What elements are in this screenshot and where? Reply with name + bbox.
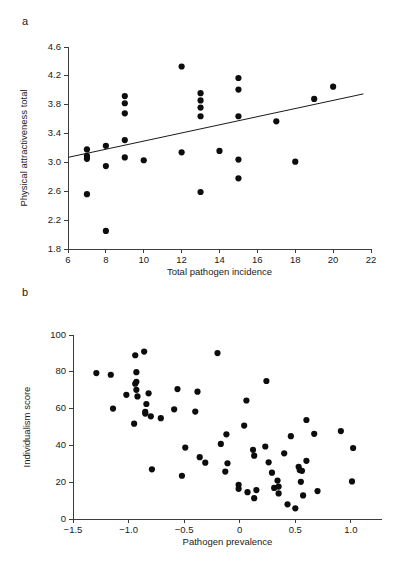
data-point xyxy=(236,486,242,492)
data-point xyxy=(158,415,164,421)
y-tick-label: 0 xyxy=(61,513,66,524)
data-point xyxy=(133,369,139,375)
data-point xyxy=(171,406,177,412)
data-point xyxy=(241,422,247,428)
data-point xyxy=(179,149,185,155)
data-point xyxy=(141,157,147,163)
x-tick-label: 14 xyxy=(214,254,225,265)
panel-b-plot-area: 020406080100−1.5−1.0−0.500.51.0Pathogen … xyxy=(0,285,401,565)
data-point xyxy=(263,378,269,384)
data-point xyxy=(274,477,280,483)
data-point xyxy=(338,428,344,434)
data-point xyxy=(149,466,155,472)
data-point xyxy=(84,156,90,162)
data-point xyxy=(314,488,320,494)
x-axis-title: Pathogen prevalence xyxy=(183,536,273,547)
data-point xyxy=(122,137,128,143)
data-point xyxy=(179,63,185,69)
y-tick-label: 60 xyxy=(55,402,66,413)
data-point xyxy=(303,417,309,423)
panel-a-plot-area: 1.82.22.63.03.43.84.24.66810121416182022… xyxy=(0,0,401,285)
data-point xyxy=(216,148,222,154)
data-point xyxy=(123,392,129,398)
y-tick-label: 4.6 xyxy=(48,41,61,52)
x-tick-label: 12 xyxy=(176,254,187,265)
data-point xyxy=(197,189,203,195)
data-point xyxy=(349,478,355,484)
data-point xyxy=(103,163,109,169)
data-point xyxy=(251,495,257,501)
data-point xyxy=(235,86,241,92)
data-point xyxy=(276,490,282,496)
data-point xyxy=(142,410,148,416)
x-tick-label: 6 xyxy=(65,254,70,265)
data-point xyxy=(330,84,336,90)
data-point xyxy=(222,468,228,474)
data-point xyxy=(292,505,298,511)
y-tick-label: 3.0 xyxy=(48,156,61,167)
data-point xyxy=(148,413,154,419)
data-point xyxy=(262,443,268,449)
data-point xyxy=(253,487,259,493)
y-tick-label: 80 xyxy=(55,365,66,376)
data-point xyxy=(284,501,290,507)
regression-line xyxy=(68,94,363,157)
data-point xyxy=(251,453,257,459)
data-point xyxy=(103,228,109,234)
data-point xyxy=(298,479,304,485)
data-point xyxy=(103,143,109,149)
y-tick-label: 2.6 xyxy=(48,185,61,196)
data-point xyxy=(311,96,317,102)
y-tick-label: 100 xyxy=(50,329,66,340)
data-point xyxy=(202,460,208,466)
data-point xyxy=(122,93,128,99)
x-tick-label: 8 xyxy=(103,254,108,265)
y-axis-title: Individualism score xyxy=(21,387,32,468)
data-point xyxy=(281,450,287,456)
x-tick-label: −1.0 xyxy=(119,524,138,535)
x-tick-label: 22 xyxy=(366,254,377,265)
data-point xyxy=(131,421,137,427)
data-point xyxy=(266,459,272,465)
x-axis-title: Total pathogen incidence xyxy=(167,266,272,277)
y-tick-label: 3.4 xyxy=(48,127,61,138)
data-point xyxy=(197,90,203,96)
data-point xyxy=(179,473,185,479)
data-point xyxy=(269,470,275,476)
data-point xyxy=(288,433,294,439)
x-tick-label: 1.0 xyxy=(344,524,357,535)
data-point-group xyxy=(93,348,356,511)
data-point xyxy=(192,408,198,414)
data-point xyxy=(122,100,128,106)
data-point xyxy=(214,350,220,356)
data-point xyxy=(122,154,128,160)
data-point xyxy=(194,389,200,395)
data-point xyxy=(244,489,250,495)
data-point xyxy=(143,401,149,407)
y-axis-title: Physical attractiveness total xyxy=(18,89,29,206)
y-tick-label: 40 xyxy=(55,439,66,450)
data-point xyxy=(132,381,138,387)
panel-a-scatter: a 1.82.22.63.03.43.84.24.668101214161820… xyxy=(0,0,401,285)
data-point xyxy=(110,406,116,412)
x-tick-label: 18 xyxy=(290,254,301,265)
figure-container: a 1.82.22.63.03.43.84.24.668101214161820… xyxy=(0,0,401,565)
data-point xyxy=(84,191,90,197)
data-point xyxy=(292,159,298,165)
x-tick-label: −0.5 xyxy=(175,524,194,535)
data-point xyxy=(197,97,203,103)
data-point xyxy=(250,447,256,453)
data-point xyxy=(134,393,140,399)
data-point xyxy=(303,458,309,464)
y-tick-label: 2.2 xyxy=(48,214,61,225)
y-tick-label: 20 xyxy=(55,476,66,487)
data-point xyxy=(145,390,151,396)
data-point xyxy=(122,110,128,116)
data-point xyxy=(235,175,241,181)
data-point xyxy=(273,118,279,124)
data-point xyxy=(276,484,282,490)
data-point xyxy=(311,431,317,437)
y-tick-label: 4.2 xyxy=(48,69,61,80)
data-point xyxy=(197,113,203,119)
data-point-group xyxy=(84,63,336,234)
